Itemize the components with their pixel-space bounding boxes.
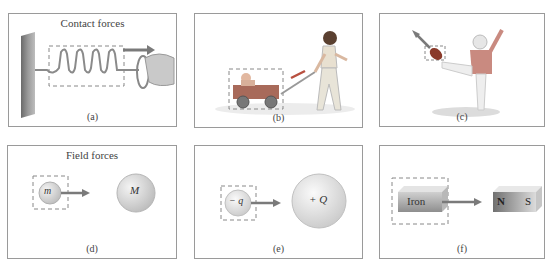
panel-b-wagon: (b): [194, 13, 363, 128]
caption-e: (e): [195, 243, 362, 254]
caption-d: (d): [8, 243, 176, 254]
force-arrow: [291, 71, 305, 78]
caption-f: (f): [380, 243, 544, 254]
player-icon: [473, 35, 487, 49]
caption-c: (c): [380, 111, 544, 122]
magnet-north-label: N: [497, 195, 505, 207]
force-arrow: [416, 34, 430, 48]
panel-d-gravity: Field forces m M (d): [7, 145, 177, 259]
large-mass-label: M: [130, 184, 139, 196]
panel-a-spring: Contact forces (a): [8, 13, 177, 127]
caption-a: (a): [9, 111, 176, 122]
child-icon: [323, 31, 337, 45]
panel-f-magnetic: Iron N S (f): [379, 145, 545, 259]
hand-icon: [145, 54, 174, 86]
spring-icon: [35, 49, 139, 72]
large-charge-label: + Q: [309, 193, 327, 205]
panel-e-electric: − q + Q (e): [194, 145, 363, 259]
small-charge-label: − q: [229, 195, 243, 206]
magnet-south-label: S: [525, 195, 531, 207]
caption-b: (b): [195, 112, 362, 123]
iron-label: Iron: [407, 195, 425, 207]
wall-icon: [21, 32, 35, 118]
small-mass-label: m: [44, 185, 51, 196]
panel-c-football: (c): [379, 13, 545, 127]
